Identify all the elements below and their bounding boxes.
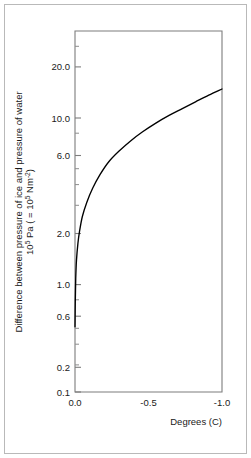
y-tick-label-0-6: 0.6 bbox=[57, 311, 70, 322]
y-axis-title-line1: Difference between pressure of ice and p… bbox=[13, 91, 24, 332]
x-tick-label-minus-1: -1.0 bbox=[214, 397, 230, 408]
y-tick-labels: 20.0 10.0 6.0 2.0 1.0 0.6 0.2 0.1 bbox=[52, 61, 71, 397]
x-axis-title: Degrees (C) bbox=[170, 416, 222, 427]
y-axis-title-line2: 105 Pa ( = 105 Nm-2) bbox=[24, 169, 36, 255]
x-tick-label-0: 0.0 bbox=[68, 397, 81, 408]
y-tick-label-6: 6.0 bbox=[57, 150, 70, 161]
y-tick-label-2: 2.0 bbox=[57, 228, 70, 239]
y-tick-label-10: 10.0 bbox=[52, 113, 71, 124]
figure-container: 20.0 10.0 6.0 2.0 1.0 0.6 0.2 0.1 0.0 -0… bbox=[0, 0, 251, 458]
y-tick-label-20: 20.0 bbox=[52, 61, 71, 72]
x-tick-label-minus-0-5: -0.5 bbox=[140, 397, 156, 408]
axis-frame bbox=[75, 31, 222, 392]
pressure-difference-chart: 20.0 10.0 6.0 2.0 1.0 0.6 0.2 0.1 0.0 -0… bbox=[0, 0, 251, 458]
y-title-post: ) bbox=[24, 169, 35, 172]
y-tick-label-1: 1.0 bbox=[57, 279, 70, 290]
y-tick-label-0-1: 0.1 bbox=[57, 387, 70, 398]
y-title-mid2: Nm bbox=[24, 178, 35, 196]
pressure-difference-curve bbox=[75, 89, 222, 327]
y-title-mid: Pa ( = 10 bbox=[24, 199, 35, 240]
y-title-pre: 10 bbox=[24, 244, 35, 255]
x-tick-labels: 0.0 -0.5 -1.0 bbox=[68, 397, 230, 408]
plot-axes bbox=[75, 31, 222, 392]
data-curve-group bbox=[75, 89, 222, 327]
y-tick-label-0-2: 0.2 bbox=[57, 362, 70, 373]
